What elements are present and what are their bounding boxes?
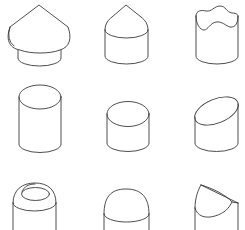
shape-cylinder-with-slanted-top bbox=[191, 91, 243, 151]
shape-cylinder-with-cone-top bbox=[105, 5, 148, 64]
shape-cylinder-with-wavy-top bbox=[196, 6, 238, 64]
shape-cylinder-with-stepped-dome bbox=[13, 183, 56, 230]
shape-cone-cap-on-short-cylinder bbox=[8, 5, 70, 66]
shape-short-cylinder bbox=[107, 102, 149, 152]
shape-cylinder-with-dome-top bbox=[104, 189, 149, 230]
shape-cylinder-with-wedge-top bbox=[195, 185, 238, 230]
shape-tall-cylinder bbox=[19, 85, 61, 153]
shape-grid bbox=[0, 0, 245, 230]
